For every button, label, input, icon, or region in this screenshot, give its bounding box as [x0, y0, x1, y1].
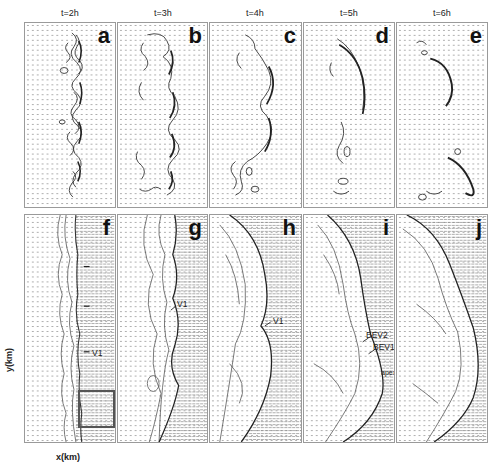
vector-field-plot [118, 23, 207, 207]
panel-letter: i [383, 217, 389, 239]
panel-letter: e [470, 25, 482, 47]
annotation-v1: V1 [273, 316, 283, 326]
panel-letter: j [476, 217, 482, 239]
figure: t=2h t=3h t=4h t=5h t=6h [0, 0, 501, 472]
inset-box [78, 390, 115, 428]
panel-letter: g [189, 217, 202, 239]
panel-letter: f [103, 217, 110, 239]
vector-field-plot [25, 23, 115, 207]
vector-field-plot [304, 215, 394, 442]
y-axis-label: y(km) [4, 348, 14, 372]
panel-d: d [303, 22, 395, 208]
panel-j: j [396, 214, 488, 443]
time-label-e: t=6h [396, 8, 488, 18]
vector-field-plot [397, 215, 487, 442]
annotation-bev1: BEV1 [373, 342, 395, 352]
annotation-v1: V1 [177, 299, 187, 309]
time-label-a: t=2h [24, 8, 116, 18]
vector-field-plot [397, 23, 487, 207]
panel-g: V1 g [117, 214, 208, 443]
panel-letter: d [376, 25, 389, 47]
panel-c: c [209, 22, 302, 208]
annotation-v1: V1 [92, 348, 102, 358]
panel-e: e [396, 22, 488, 208]
x-axis-label: x(km) [56, 452, 80, 462]
time-label-b: t=3h [117, 8, 209, 18]
time-label-c: t=4h [209, 8, 301, 18]
panel-letter: b [189, 25, 202, 47]
panel-letter: h [283, 217, 296, 239]
vector-field-plot [304, 23, 394, 207]
panel-i: BEV2 BEV1 apex i [303, 214, 395, 443]
panel-b: b [117, 22, 208, 208]
panel-letter: a [98, 25, 110, 47]
vector-field-plot [118, 215, 207, 442]
panel-a: a [24, 22, 116, 208]
annotation-bev2: BEV2 [366, 330, 388, 340]
time-label-d: t=5h [303, 8, 395, 18]
annotation-apex: apex [381, 369, 395, 376]
vector-field-plot [210, 23, 301, 207]
panel-letter: c [284, 25, 296, 47]
panel-h: V1 h [209, 214, 302, 443]
vector-field-plot [210, 215, 301, 442]
panel-f: V1 f [24, 214, 116, 443]
